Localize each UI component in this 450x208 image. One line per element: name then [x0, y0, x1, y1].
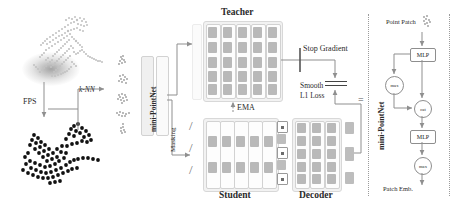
- right-panel-connectors: [0, 0, 450, 208]
- figure-canvas: FPS: [0, 0, 450, 208]
